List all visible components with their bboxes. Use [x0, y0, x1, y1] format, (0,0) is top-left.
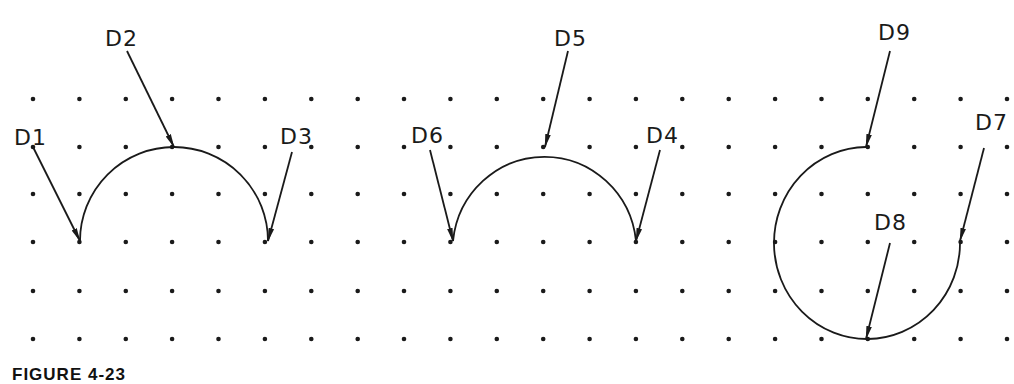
grid-dot: [819, 289, 824, 294]
grid-dot: [124, 337, 129, 342]
grid-dot: [634, 289, 639, 294]
grid-dot: [587, 289, 592, 294]
grid-dot: [634, 97, 639, 102]
grid-dot: [1005, 289, 1010, 294]
grid-dot: [495, 145, 500, 150]
grid-dot: [170, 192, 175, 197]
grid-dot: [958, 97, 963, 102]
grid-dot: [448, 337, 453, 342]
point-label-d1: D1: [14, 125, 47, 150]
grid-dot: [77, 192, 82, 197]
grid-dot: [726, 337, 731, 342]
grid-dot: [77, 145, 82, 150]
grid-dot: [77, 289, 82, 294]
grid-dot: [773, 337, 778, 342]
snap-grid: [31, 97, 1010, 342]
point-label-d4: D4: [646, 123, 679, 148]
grid-dot: [170, 289, 175, 294]
grid-dot: [726, 97, 731, 102]
grid-dot: [355, 97, 360, 102]
grid-dot: [216, 97, 221, 102]
grid-dot: [773, 289, 778, 294]
grid-dot: [634, 145, 639, 150]
grid-dot: [912, 192, 917, 197]
grid-dot: [495, 289, 500, 294]
grid-dot: [309, 192, 314, 197]
grid-dot: [402, 145, 407, 150]
grid-dot: [680, 240, 685, 245]
grid-dot: [355, 289, 360, 294]
grid-dot: [587, 97, 592, 102]
grid-dot: [170, 97, 175, 102]
grid-dot: [773, 145, 778, 150]
grid-dot: [1005, 145, 1010, 150]
grid-dot: [958, 289, 963, 294]
leader-arrow-d7: [960, 148, 984, 241]
grid-dot: [216, 337, 221, 342]
grid-dot: [680, 337, 685, 342]
grid-dot: [726, 192, 731, 197]
arc-three-point-2: [453, 157, 636, 241]
grid-dot: [1005, 240, 1010, 245]
grid-dot: [124, 97, 129, 102]
grid-dot: [216, 289, 221, 294]
grid-dot: [31, 289, 36, 294]
grid-dot: [726, 289, 731, 294]
grid-dot: [263, 97, 268, 102]
grid-dot: [1005, 337, 1010, 342]
grid-dot: [773, 192, 778, 197]
grid-dot: [958, 192, 963, 197]
grid-dot: [726, 145, 731, 150]
point-label-d6: D6: [411, 123, 444, 148]
grid-dot: [819, 240, 824, 245]
grid-dot: [309, 240, 314, 245]
grid-dot: [216, 192, 221, 197]
grid-dot: [680, 192, 685, 197]
grid-dot: [263, 289, 268, 294]
grid-dot: [402, 240, 407, 245]
grid-dot: [773, 97, 778, 102]
leader-arrow-d3: [268, 152, 292, 241]
grid-dot: [1005, 192, 1010, 197]
grid-dot: [216, 145, 221, 150]
grid-dot: [866, 192, 871, 197]
grid-dot: [819, 192, 824, 197]
grid-dot: [31, 337, 36, 342]
leader-arrow-d5: [545, 51, 568, 147]
grid-dot: [495, 240, 500, 245]
grid-dot: [587, 337, 592, 342]
grid-dot: [309, 337, 314, 342]
grid-dot: [680, 97, 685, 102]
grid-dot: [634, 337, 639, 342]
grid-dot: [263, 192, 268, 197]
leader-arrow-d4: [636, 150, 660, 241]
grid-dot: [495, 337, 500, 342]
point-label-d3: D3: [280, 124, 313, 149]
grid-dot: [541, 289, 546, 294]
grid-dot: [541, 192, 546, 197]
grid-dot: [170, 240, 175, 245]
grid-dot: [402, 192, 407, 197]
grid-dot: [587, 192, 592, 197]
leader-arrow-d1: [33, 147, 80, 241]
grid-dot: [309, 97, 314, 102]
grid-dot: [31, 240, 36, 245]
grid-dot: [124, 192, 129, 197]
grid-dot: [77, 337, 82, 342]
grid-dot: [448, 97, 453, 102]
grid-dot: [355, 192, 360, 197]
grid-dot: [495, 97, 500, 102]
grid-dot: [402, 97, 407, 102]
point-labels: D1D2D3D6D5D4D9D7D8: [14, 20, 1008, 235]
point-label-d5: D5: [554, 26, 587, 51]
grid-dot: [680, 145, 685, 150]
grid-dot: [680, 289, 685, 294]
grid-dot: [866, 97, 871, 102]
grid-dot: [958, 145, 963, 150]
grid-dot: [541, 240, 546, 245]
grid-dot: [31, 97, 36, 102]
grid-dot: [912, 97, 917, 102]
grid-dot: [124, 240, 129, 245]
grid-dot: [819, 145, 824, 150]
point-label-d7: D7: [975, 110, 1008, 135]
